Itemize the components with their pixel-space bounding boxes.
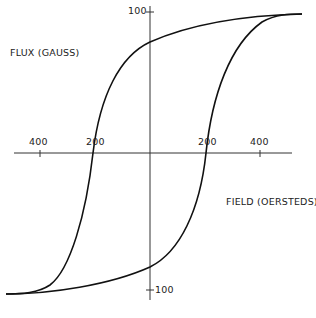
y-axis-title: FLUX (GAUSS) — [10, 47, 79, 58]
y-tick-label-top: 100 — [128, 5, 147, 16]
x-tick-label-pos-400: 400 — [250, 136, 269, 147]
y-tick-label-bottom: 100 — [155, 284, 174, 295]
x-axis-title: FIELD (OERSTEDS) — [226, 196, 316, 207]
x-tick-label-pos-200: 200 — [198, 136, 217, 147]
x-tick-label-neg-200: 200 — [86, 136, 105, 147]
x-tick-label-neg-400: 400 — [29, 136, 48, 147]
